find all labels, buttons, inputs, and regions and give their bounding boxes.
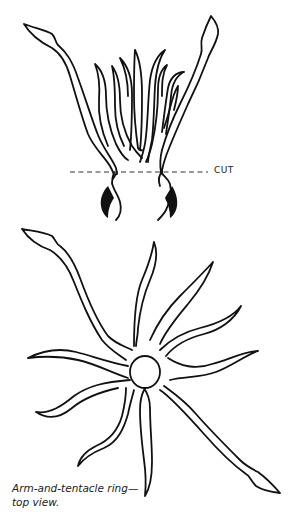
- right-eye-icon: [165, 186, 177, 218]
- ring-tentacle-lower-right: [160, 386, 280, 493]
- arm-3: [120, 58, 132, 150]
- left-eye-icon: [101, 186, 114, 218]
- left-tentacle: [24, 24, 117, 174]
- caption-line-2: top view.: [12, 495, 172, 509]
- right-tentacle: [160, 16, 218, 172]
- left-base-stalk: [112, 172, 121, 220]
- ring-arm-right: [168, 351, 258, 380]
- caption-line-1: Arm-and-tentacle ring—: [12, 481, 172, 495]
- top-view-ring: [22, 229, 280, 496]
- side-view-arms: [24, 16, 218, 220]
- mouth-ring: [130, 356, 160, 388]
- arm-4: [134, 50, 142, 150]
- ring-arm-left: [28, 350, 128, 378]
- ring-arm-upper-right: [150, 262, 213, 344]
- squid-arm-diagram: CUT Arm-and-tentacle ring— top view.: [0, 0, 295, 527]
- ring-arm-lower-left: [36, 380, 130, 417]
- ring-arm-right-upper: [160, 306, 241, 356]
- ring-arm-bottom: [140, 388, 152, 496]
- cut-label: CUT: [214, 165, 234, 175]
- ring-arm-top: [134, 242, 156, 346]
- figure-caption: Arm-and-tentacle ring— top view.: [12, 481, 172, 509]
- diagram-svg: [0, 0, 295, 527]
- ring-tentacle-upper-left: [22, 229, 132, 360]
